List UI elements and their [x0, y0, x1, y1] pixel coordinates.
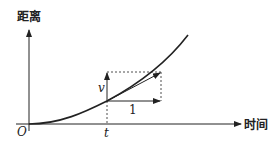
tangent-arrow: [107, 73, 160, 101]
distance-time-diagram: [0, 0, 277, 149]
unit-label: 1: [129, 104, 137, 116]
v-label: v: [98, 82, 105, 94]
t-label: t: [104, 127, 109, 139]
distance-curve: [29, 35, 188, 124]
x-axis-label: 时间: [244, 119, 268, 131]
y-axis-label: 距离: [17, 11, 41, 23]
origin-label: O: [17, 126, 27, 138]
